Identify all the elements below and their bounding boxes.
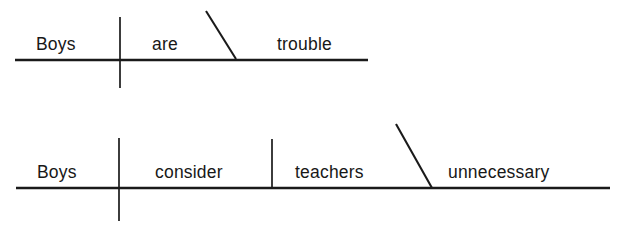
diagram-2-verb-word: consider	[155, 164, 223, 182]
diagram-2-object-complement-slant-line	[396, 124, 432, 188]
diagram-1-predicate-slant-line	[206, 11, 236, 59]
diagram-2-complement-word: unnecessary	[448, 164, 549, 182]
diagram-1-subject-word: Boys	[36, 36, 76, 54]
diagram-1-verb-word: are	[152, 36, 178, 54]
diagram-2-subject-word: Boys	[37, 164, 77, 182]
diagram-2-object-word: teachers	[295, 164, 364, 182]
diagram-1-complement-word: trouble	[277, 36, 332, 54]
